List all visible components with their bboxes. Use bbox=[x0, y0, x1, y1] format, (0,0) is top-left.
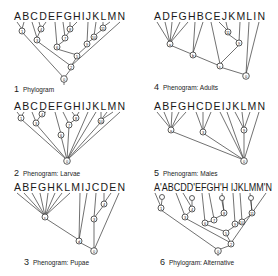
panel-4-taxa: ADFGHBCEJKMLIN bbox=[154, 10, 265, 22]
panel-5-phenogram-males: ABFGHCDEIJKLMN a 3 9 0 5Phenogram: Males bbox=[154, 100, 265, 178]
panel-4-phenogram-adults: ADFGHBCEJKMLIN a b c 11 9 0 4Phenogram: … bbox=[154, 10, 265, 92]
panel-6-caption: 6Phylogram: Alternative bbox=[160, 257, 234, 267]
diagram-canvas: ABCDEFGHIJKLMN 1 3 4 6 7 8 5 bbox=[0, 0, 278, 276]
panel-4-caption: 4Phenogram: Adults bbox=[154, 82, 219, 92]
svg-text:d: d bbox=[78, 239, 80, 244]
panel-1-taxa: ABCDEFGHIJKLMN bbox=[14, 10, 125, 22]
panel-2-phenogram-larvae: ABCDEFGHIJKLMN 1 3 4 6 7 8 10 0 2Phenogr… bbox=[14, 100, 125, 178]
panel-2-taxa: ABCDEFGHIJKLMN bbox=[14, 100, 125, 112]
panel-3-taxa: ABFGHKLMIJCDEN bbox=[14, 181, 125, 193]
panel-6-phylogram-alternative: A'ABCDD'EFGH'H IJKLMM'N 1 3 4 bbox=[154, 181, 272, 267]
svg-text:c: c bbox=[44, 215, 46, 220]
svg-text:10: 10 bbox=[240, 220, 245, 225]
svg-text:10: 10 bbox=[99, 119, 104, 124]
svg-text:c: c bbox=[219, 64, 221, 69]
panel-1-caption: 1Phylogram bbox=[14, 84, 54, 94]
svg-text:10: 10 bbox=[92, 35, 97, 40]
panel-5-taxa: ABFGHCDEIJKLMN bbox=[154, 100, 265, 112]
panel-3-phenogram-pupae: ABFGHKLMIJCDEN c d 3 4 0 3Phenogram: Pup… bbox=[14, 181, 125, 267]
panel-2-caption: 2Phenogram: Larvae bbox=[14, 168, 80, 178]
panel-3-caption: 3Phenogram: Pupae bbox=[24, 257, 89, 267]
panel-1-phylogram: ABCDEFGHIJKLMN 1 3 4 6 7 8 5 bbox=[14, 10, 125, 94]
panel-6-taxa: A'ABCDD'EFGH'H IJKLMM'N bbox=[154, 181, 272, 193]
panel-5-caption: 5Phenogram: Males bbox=[154, 168, 218, 178]
